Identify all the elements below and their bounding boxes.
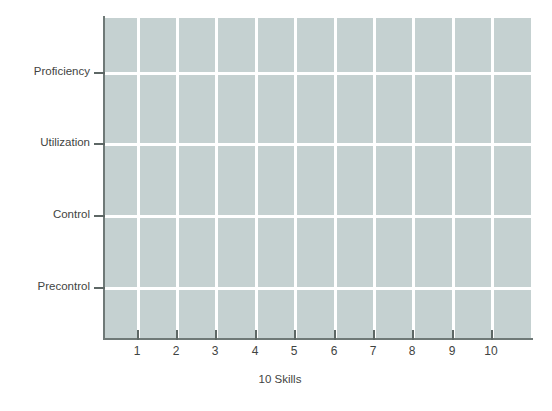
gridline-vertical-7: [373, 18, 376, 338]
x-tick-label-7: 7: [353, 345, 393, 357]
y-tick-mark-proficiency: [94, 72, 105, 74]
gridline-vertical-9: [452, 18, 455, 338]
y-tick-mark-utilization: [94, 143, 105, 145]
gridline-vertical-10: [491, 18, 494, 338]
y-tick-label-control: Control: [53, 209, 90, 221]
x-tick-label-8: 8: [392, 345, 432, 357]
x-tick-label-5: 5: [274, 345, 314, 357]
y-tick-label-precontrol: Precontrol: [38, 281, 90, 293]
gridline-vertical-2: [176, 18, 179, 338]
y-axis-spine: [103, 16, 105, 340]
x-axis-spine: [103, 338, 533, 340]
x-tick-label-9: 9: [432, 345, 472, 357]
chart-figure: ProficiencyUtilizationControlPrecontrol …: [0, 0, 552, 411]
x-tick-label-10: 10: [471, 345, 511, 357]
gridline-vertical-3: [215, 18, 218, 338]
plot-area: [105, 18, 531, 338]
x-tick-mark-6: [334, 330, 336, 340]
x-axis-title: 10 Skills: [105, 374, 455, 386]
gridline-vertical-8: [412, 18, 415, 338]
y-tick-mark-control: [94, 215, 105, 217]
x-tick-mark-9: [452, 330, 454, 340]
y-tick-label-proficiency: Proficiency: [34, 66, 90, 78]
x-tick-label-3: 3: [195, 345, 235, 357]
gridline-horizontal-precontrol: [105, 287, 531, 290]
y-tick-label-utilization: Utilization: [40, 137, 90, 149]
x-tick-mark-3: [215, 330, 217, 340]
x-tick-mark-5: [294, 330, 296, 340]
gridline-vertical-4: [255, 18, 258, 338]
x-tick-label-6: 6: [314, 345, 354, 357]
gridline-vertical-6: [334, 18, 337, 338]
gridline-vertical-5: [294, 18, 297, 338]
gridline-horizontal-proficiency: [105, 72, 531, 75]
x-tick-mark-4: [255, 330, 257, 340]
gridline-vertical-1: [137, 18, 140, 338]
x-tick-mark-2: [176, 330, 178, 340]
y-tick-mark-precontrol: [94, 287, 105, 289]
x-tick-mark-10: [491, 330, 493, 340]
x-tick-label-2: 2: [156, 345, 196, 357]
x-tick-mark-7: [373, 330, 375, 340]
gridline-horizontal-utilization: [105, 143, 531, 146]
x-tick-label-1: 1: [117, 345, 157, 357]
x-tick-mark-1: [137, 330, 139, 340]
x-tick-mark-8: [412, 330, 414, 340]
gridline-horizontal-control: [105, 215, 531, 218]
x-tick-label-4: 4: [235, 345, 275, 357]
